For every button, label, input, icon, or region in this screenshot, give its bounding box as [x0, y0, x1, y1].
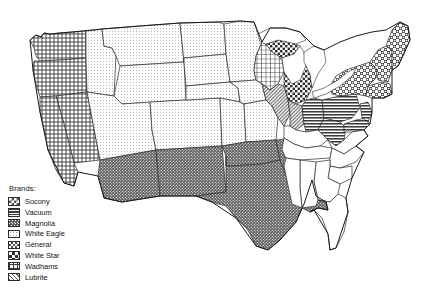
state-pennsylvania — [322, 94, 360, 122]
legend-item-white-eagle[interactable]: White Eagle — [8, 229, 104, 239]
legend-item-socony[interactable]: Socony — [8, 197, 104, 207]
legend-label-white-star: White Star — [25, 251, 60, 260]
state-colorado — [150, 98, 222, 150]
region-white-eagle — [86, 21, 278, 160]
state-south-dakota — [184, 54, 230, 86]
wadhams-swatch — [8, 262, 20, 270]
state-indiana — [288, 100, 304, 130]
general-swatch — [8, 241, 20, 249]
legend-label-wadhams: Wadhams — [25, 262, 58, 271]
legend-label-white-eagle: White Eagle — [25, 229, 65, 238]
legend-label-vacuum: Vacuum — [25, 208, 52, 217]
region-unassigned — [282, 126, 368, 250]
white-star-swatch — [8, 251, 20, 259]
lubrite-swatch — [8, 273, 20, 281]
legend: Brands: Socony Vacuum Magnolia White Eag… — [8, 184, 104, 283]
state-kansas — [220, 98, 246, 146]
legend-item-white-star[interactable]: White Star — [8, 250, 104, 260]
legend-label-general: General — [25, 240, 51, 249]
white-eagle-swatch — [8, 230, 20, 238]
vacuum-swatch — [8, 208, 20, 216]
state-new-mexico — [156, 146, 226, 196]
legend-label-socony: Socony — [25, 197, 50, 206]
legend-item-vacuum[interactable]: Vacuum — [8, 207, 104, 217]
state-oregon — [33, 58, 87, 97]
state-wyoming — [114, 62, 186, 104]
brand-territory-map: Brands: Socony Vacuum Magnolia White Eag… — [0, 0, 426, 289]
legend-item-wadhams[interactable]: Wadhams — [8, 261, 104, 271]
magnolia-swatch — [8, 219, 20, 227]
socony-swatch — [8, 197, 20, 205]
legend-item-lubrite[interactable]: Lubrite — [8, 272, 104, 282]
legend-label-lubrite: Lubrite — [25, 273, 48, 282]
legend-label-magnolia: Magnolia — [25, 219, 55, 228]
region-socony — [330, 22, 410, 98]
legend-item-general[interactable]: General — [8, 240, 104, 250]
legend-title: Brands: — [9, 184, 104, 194]
legend-item-magnolia[interactable]: Magnolia — [8, 218, 104, 228]
